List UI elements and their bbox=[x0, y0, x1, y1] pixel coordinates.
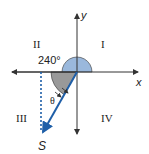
x-axis-label: x bbox=[136, 76, 142, 88]
coordinate-diagram bbox=[0, 0, 149, 154]
vector-s-label: S bbox=[38, 139, 46, 153]
quadrant-iii: III bbox=[16, 112, 27, 124]
y-axis-label: y bbox=[81, 9, 87, 21]
quadrant-iv: IV bbox=[101, 112, 113, 124]
quadrant-i: I bbox=[101, 38, 105, 50]
theta-label: θ bbox=[50, 95, 55, 106]
theta-sector bbox=[51, 72, 77, 95]
angle-240-label: 240° bbox=[38, 54, 61, 66]
quadrant-ii: II bbox=[33, 38, 40, 50]
